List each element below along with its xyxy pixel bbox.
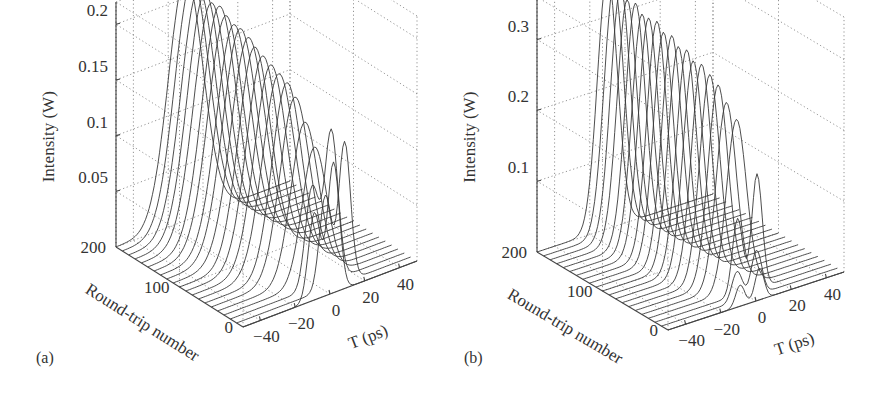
roundtrip-tick-label: 0 [225,318,234,337]
t-axis-title: T (ps) [772,328,817,359]
chart-panel-b: 0.10.20.30100200−40−2002040Intensity (W)… [437,0,875,393]
z-axis-title: Intensity (W) [460,92,479,183]
t-tick-label: −40 [678,331,705,350]
waterfall-plot-b: 0.10.20.30100200−40−2002040Intensity (W)… [437,0,875,393]
roundtrip-tick-label: 100 [567,282,593,301]
panel-label: (b) [464,349,483,367]
waterfall-plot-a: 0.050.10.150.20100200−40−2002040Intensit… [0,0,438,393]
z-tick-label: 0.2 [87,1,108,20]
z-axis-title: Intensity (W) [39,91,58,182]
panel-label: (a) [36,349,54,367]
t-tick-label: 20 [789,296,806,315]
t-axis-title: T (ps) [346,321,391,353]
t-tick-label: 0 [758,308,767,327]
t-tick-label: −20 [288,314,315,333]
roundtrip-axis-title: Round-trip number [504,285,626,368]
z-tick-label: 0.2 [508,87,529,106]
t-tick-label: 40 [824,285,841,304]
roundtrip-tick-label: 0 [650,321,659,340]
roundtrip-tick-label: 200 [502,243,528,262]
roundtrip-tick-label: 200 [81,238,107,257]
chart-panel-a: 0.050.10.150.20100200−40−2002040Intensit… [0,0,438,393]
z-tick-label: 0.05 [78,168,108,187]
z-tick-label: 0.1 [508,158,529,177]
t-tick-label: 40 [397,275,414,294]
waterfall-curves [537,0,844,330]
z-tick-label: 0.1 [87,113,108,132]
t-tick-label: −20 [714,320,741,339]
z-tick-label: 0.3 [508,17,529,36]
z-tick-label: 0.15 [78,57,108,76]
t-tick-label: −40 [253,327,280,346]
roundtrip-axis-title: Round-trip number [82,279,203,365]
roundtrip-tick-label: 100 [144,278,170,297]
t-tick-label: 20 [362,288,379,307]
t-tick-label: 0 [332,301,341,320]
